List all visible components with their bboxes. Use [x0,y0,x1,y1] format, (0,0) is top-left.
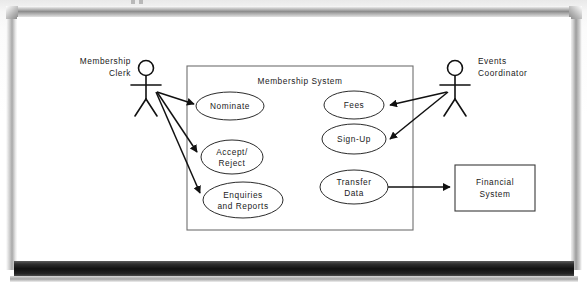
use-case-label: Fees [344,100,365,110]
system-boundary-label: Membership System [258,76,343,86]
external-system-financial[interactable]: Financial System [455,165,535,211]
association-clerk-to-nominate [157,92,194,104]
actor-label-line2: Coordinator [478,68,527,78]
whiteboard-screenshot: Membership System Nominate Accept/ Rejec… [0,0,587,287]
use-case-fees[interactable]: Fees [324,91,384,119]
actor-membership-clerk[interactable]: Membership Clerk [80,56,161,116]
use-case-label-line2: and Reports [217,201,268,211]
use-case-diagram: Membership System Nominate Accept/ Rejec… [0,0,587,287]
actor-label-line1: Events [478,56,507,66]
use-case-label-line1: Transfer [337,177,372,187]
actor-label-line1: Membership [80,56,131,66]
use-case-sign-up[interactable]: Sign-Up [322,124,386,154]
use-case-label-line2: Data [344,188,364,198]
use-case-transfer-data[interactable]: Transfer Data [320,170,388,204]
use-case-label: Sign-Up [337,134,371,144]
actor-label-line2: Clerk [109,68,131,78]
external-system-label-line1: Financial [476,177,514,187]
association-coordinator-to-fees [390,92,447,105]
use-case-label-line1: Enquiries [223,190,263,200]
external-system-label-line2: System [480,189,511,199]
use-case-enquiries-reports[interactable]: Enquiries and Reports [203,182,283,218]
use-case-nominate[interactable]: Nominate [196,92,264,120]
association-clerk-to-accept-reject [157,92,197,152]
use-case-label-line1: Accept/ [216,147,248,157]
use-case-label: Nominate [210,101,250,111]
actor-events-coordinator[interactable]: Events Coordinator [440,56,527,116]
association-clerk-to-enquiries [156,92,200,193]
use-case-accept-reject[interactable]: Accept/ Reject [201,140,263,174]
use-case-label-line2: Reject [219,158,246,168]
